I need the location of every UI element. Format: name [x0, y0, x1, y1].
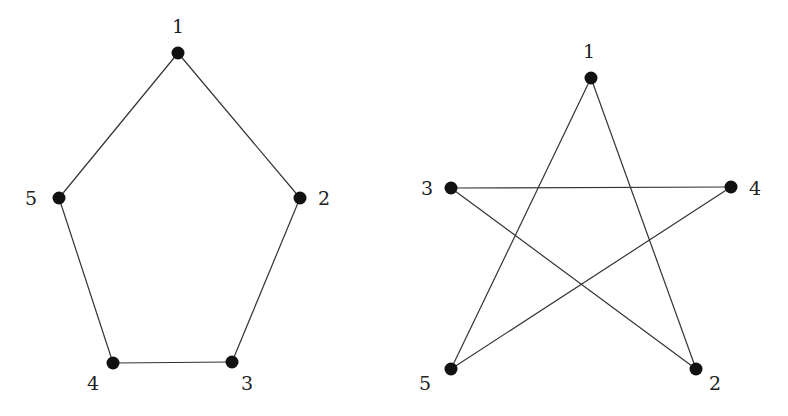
node-1 [585, 72, 598, 85]
node-label-4: 4 [87, 372, 99, 394]
node-label-3: 3 [421, 177, 433, 199]
node-1 [172, 47, 185, 60]
edge-5-1 [451, 78, 591, 369]
node-5 [53, 192, 66, 205]
graph-diagram: 12345 12345 [0, 0, 788, 416]
node-label-3: 3 [241, 372, 253, 394]
node-label-2: 2 [709, 372, 721, 394]
node-3 [445, 182, 458, 195]
edge-4-5 [451, 187, 731, 369]
pentagon-graph: 12345 [25, 15, 330, 394]
node-2 [690, 363, 703, 376]
node-label-5: 5 [25, 187, 37, 209]
edge-3-4 [113, 362, 232, 363]
node-label-4: 4 [749, 177, 761, 199]
node-label-5: 5 [419, 372, 431, 394]
node-3 [226, 356, 239, 369]
edge-2-3 [451, 188, 696, 369]
node-2 [294, 192, 307, 205]
node-label-1: 1 [172, 15, 184, 37]
edge-1-2 [178, 53, 300, 198]
pentagram-graph: 12345 [419, 40, 761, 394]
edge-5-1 [59, 53, 178, 198]
edge-2-3 [232, 198, 300, 362]
edge-1-2 [591, 78, 696, 369]
node-4 [725, 181, 738, 194]
node-label-2: 2 [318, 187, 330, 209]
node-5 [445, 363, 458, 376]
node-label-1: 1 [583, 40, 595, 62]
edge-4-5 [59, 198, 113, 363]
edge-3-4 [451, 187, 731, 188]
node-4 [107, 357, 120, 370]
